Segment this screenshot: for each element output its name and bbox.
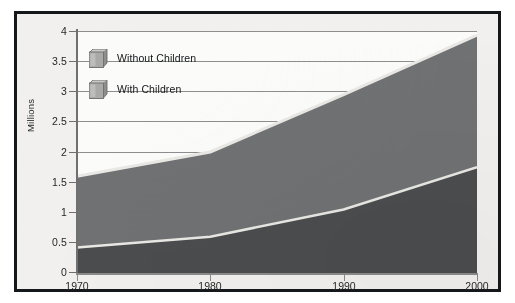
y-tick-label-1-5: 1.5	[21, 177, 67, 187]
x-axis-line	[76, 273, 478, 275]
y-tick-label-4-wrap: 4	[17, 26, 67, 36]
legend-label-with-children: With Children	[117, 83, 181, 95]
y-axis-title: Millions	[25, 99, 36, 132]
y-tick-2	[69, 152, 77, 153]
x-tick-label-1990: 1990	[312, 280, 376, 292]
y-tick-3	[69, 91, 77, 92]
y-tick-1-5	[69, 182, 77, 183]
y-tick-label-0-wrap: 0	[17, 267, 67, 277]
y-tick-label-1-5-wrap: 1.5	[17, 177, 67, 187]
y-tick-0-5	[69, 242, 77, 243]
y-tick-label-2-wrap: 2	[17, 147, 67, 157]
y-tick-label-2: 2	[21, 147, 67, 157]
y-tick-label-1-wrap: 1	[17, 207, 67, 217]
y-tick-label-3: 3	[21, 86, 67, 96]
chart-frame: 4 3.5 3 2.5 2 1.5 1 0.5 0 Millions	[14, 11, 501, 292]
y-tick-label-0: 0	[21, 267, 67, 277]
y-tick-2-5	[69, 121, 77, 122]
y-tick-label-4: 4	[21, 26, 67, 36]
x-tick-label-1980: 1980	[178, 280, 242, 292]
y-tick-3-5	[69, 61, 77, 62]
x-tick-label-2000: 2000	[445, 280, 509, 292]
cube-swatch-icon	[89, 80, 108, 99]
y-tick-label-3-wrap: 3	[17, 86, 67, 96]
y-tick-label-0-5-wrap: 0.5	[17, 237, 67, 247]
legend-item-with-children[interactable]: With Children	[89, 78, 181, 100]
x-tick-label-1970: 1970	[45, 280, 109, 292]
cube-swatch-icon	[89, 49, 108, 68]
chart-panel: 4 3.5 3 2.5 2 1.5 1 0.5 0 Millions	[17, 14, 498, 289]
y-tick-label-3-5-wrap: 3.5	[17, 56, 67, 66]
y-tick-0	[69, 272, 77, 273]
legend-item-without-children[interactable]: Without Children	[89, 47, 196, 69]
y-tick-label-0-5: 0.5	[21, 237, 67, 247]
legend-label-without-children: Without Children	[117, 52, 196, 64]
y-tick-label-3-5: 3.5	[21, 56, 67, 66]
y-tick-1	[69, 212, 77, 213]
y-tick-4	[69, 31, 77, 32]
y-tick-label-1: 1	[21, 207, 67, 217]
